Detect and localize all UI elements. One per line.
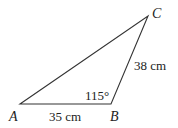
side-bc-length: 38 cm	[134, 58, 166, 73]
vertex-label-c: C	[152, 6, 162, 21]
angle-b-measure: 115°	[85, 88, 109, 103]
vertex-label-a: A	[8, 109, 18, 124]
side-ab-length: 35 cm	[49, 109, 81, 124]
triangle-abc	[20, 16, 148, 104]
triangle-diagram: A B C 35 cm 38 cm 115°	[0, 0, 178, 128]
vertex-label-b: B	[110, 109, 119, 124]
